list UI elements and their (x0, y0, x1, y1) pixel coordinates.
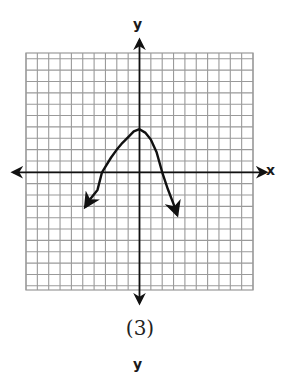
y-axis-label: y (133, 16, 142, 32)
next-figure-y-label: y (133, 356, 142, 372)
x-axis-label: x (266, 162, 275, 178)
figure-caption: (3) (116, 316, 164, 340)
